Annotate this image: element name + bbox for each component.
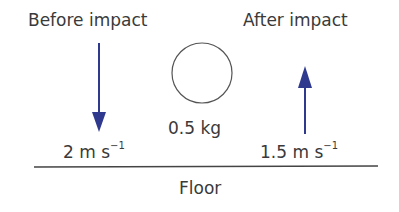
velocity-after-value: 1.5 m s (260, 142, 323, 162)
floor-label: Floor (179, 180, 221, 197)
velocity-before-value: 2 m s (63, 142, 110, 162)
after-impact-label: After impact (243, 12, 348, 29)
velocity-after-exponent: −1 (323, 140, 338, 151)
before-impact-label: Before impact (28, 12, 148, 29)
floor-line (34, 166, 378, 167)
arrow-down-icon (92, 43, 106, 132)
velocity-before-exponent: −1 (110, 140, 125, 151)
mass-label: 0.5 kg (168, 120, 221, 137)
velocity-before-label: 2 m s−1 (63, 144, 125, 161)
arrow-up-icon (298, 66, 312, 134)
velocity-after-label: 1.5 m s−1 (260, 144, 338, 161)
ball (172, 43, 232, 103)
